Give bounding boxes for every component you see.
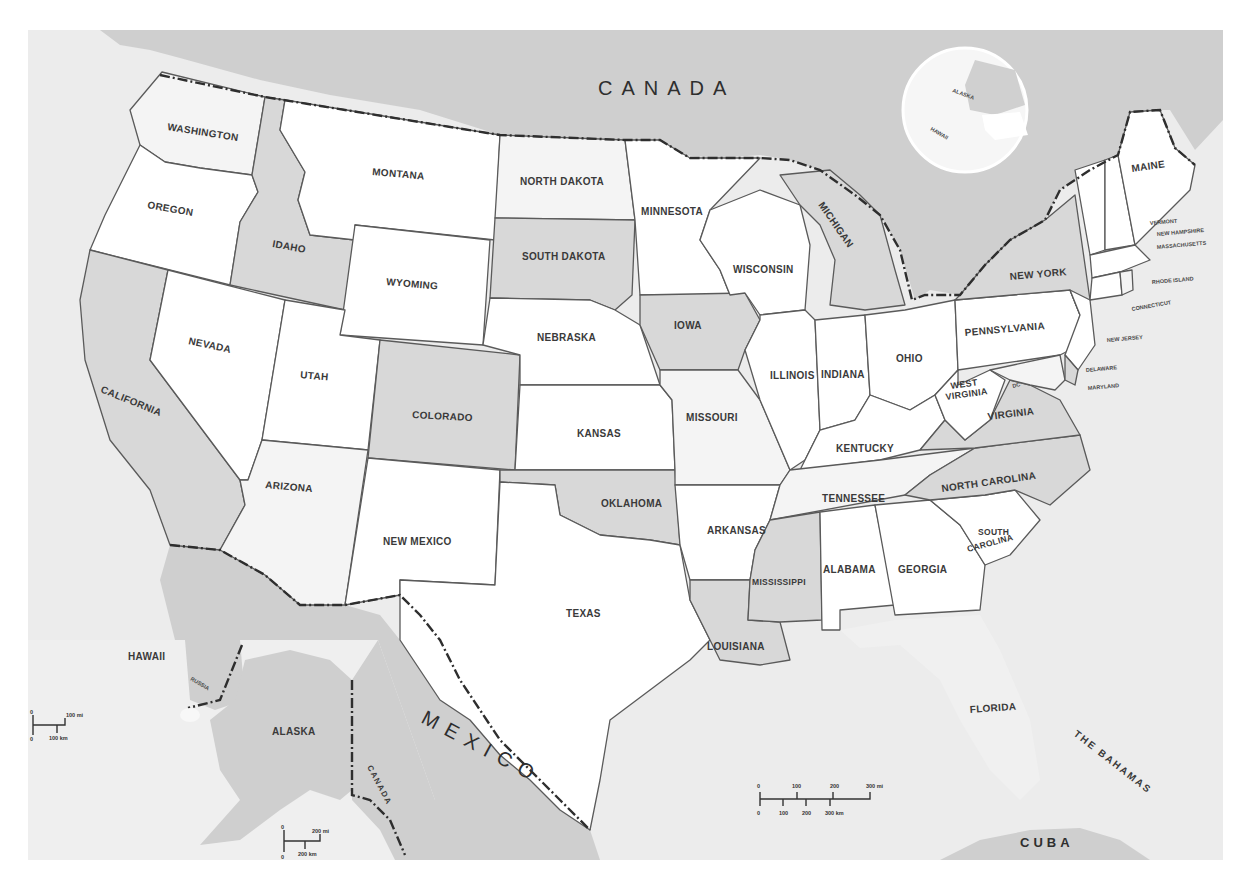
label-maryland: MARYLAND [1088, 382, 1120, 391]
label-vermont: VERMONT [1150, 218, 1179, 226]
svg-text:200 mi: 200 mi [312, 828, 330, 834]
label-alabama: ALABAMA [823, 564, 876, 575]
label-massachusetts: MASSACHUSETTS [1157, 240, 1207, 250]
label-new-mexico: NEW MEXICO [383, 536, 452, 547]
label-georgia: GEORGIA [898, 564, 947, 575]
label-north-dakota: NORTH DAKOTA [520, 176, 604, 187]
svg-text:200 km: 200 km [298, 851, 317, 857]
label-iowa: IOWA [674, 320, 702, 331]
label-indiana: INDIANA [821, 369, 865, 380]
us-map: CANADA MEXICO CUBA THE BAHAMAS CANADA WA… [28, 30, 1223, 860]
label-missouri: MISSOURI [686, 412, 738, 423]
svg-text:100 mi: 100 mi [66, 712, 84, 718]
label-south-dakota: SOUTH DAKOTA [522, 251, 605, 262]
svg-text:0: 0 [30, 736, 33, 742]
hawaii-island [180, 708, 200, 722]
label-cuba: CUBA [1020, 835, 1074, 850]
label-illinois: ILLINOIS [770, 370, 815, 381]
svg-text:0: 0 [757, 810, 760, 816]
svg-text:0: 0 [281, 854, 284, 860]
label-mississippi: MISSISSIPPI [752, 577, 806, 587]
label-connecticut: CONNECTICUT [1131, 299, 1172, 312]
svg-text:200: 200 [830, 783, 839, 789]
svg-text:300 mi: 300 mi [866, 783, 884, 789]
label-rhode-island: RHODE ISLAND [1152, 275, 1194, 285]
scale-bar-main: 0 100 200 300 mi 0 100 200 300 km [757, 783, 884, 816]
label-minnesota: MINNESOTA [641, 206, 703, 217]
label-new-jersey: NEW JERSEY [1107, 334, 1144, 343]
label-delaware: DELAWARE [1086, 364, 1118, 373]
label-tennessee: TENNESSEE [822, 493, 885, 504]
state-south-dakota [490, 218, 635, 310]
state-iowa [640, 293, 760, 370]
label-ohio: OHIO [896, 353, 923, 364]
state-colorado [368, 340, 520, 470]
label-louisiana: LOUISIANA [707, 641, 765, 652]
label-bahamas: THE BAHAMAS [1072, 728, 1154, 796]
label-alaska: ALASKA [272, 726, 315, 737]
svg-text:100: 100 [792, 783, 801, 789]
svg-text:100 km: 100 km [49, 735, 68, 741]
label-kentucky: KENTUCKY [836, 443, 894, 454]
label-nebraska: NEBRASKA [537, 332, 596, 343]
svg-text:0: 0 [757, 783, 760, 789]
state-rhode-island [1120, 270, 1133, 295]
label-kansas: KANSAS [577, 428, 621, 439]
svg-text:300 km: 300 km [825, 810, 844, 816]
svg-text:200: 200 [802, 810, 811, 816]
label-new-hampshire: NEW HAMPSHIRE [1157, 227, 1205, 237]
label-canada: CANADA [598, 77, 735, 99]
label-arkansas: ARKANSAS [707, 525, 766, 536]
label-oklahoma: OKLAHOMA [601, 498, 662, 509]
label-texas: TEXAS [566, 608, 601, 619]
svg-text:0: 0 [30, 709, 33, 715]
label-wisconsin: WISCONSIN [733, 264, 793, 275]
svg-text:0: 0 [281, 824, 284, 830]
svg-text:100: 100 [779, 810, 788, 816]
label-hawaii: HAWAII [128, 651, 165, 662]
